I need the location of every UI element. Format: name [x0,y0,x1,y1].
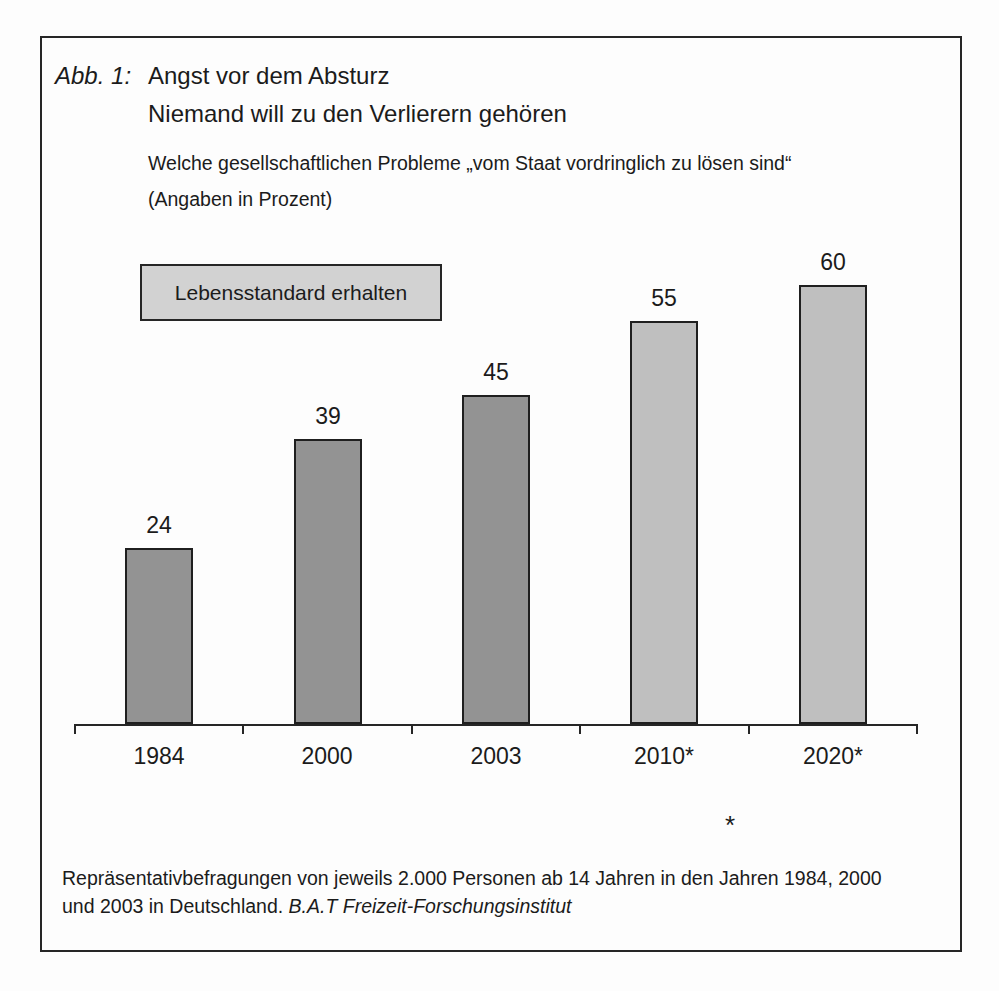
bar-value-label: 39 [268,403,388,433]
bar-2000 [294,439,362,724]
scanned-figure-page: Abb. 1: Angst vor dem Absturz Niemand wi… [0,0,999,991]
source-note-line-2-plain: und 2003 in Deutschland. [62,895,289,917]
bar-2003 [462,395,530,724]
bar-value-label: 45 [436,359,556,389]
x-axis-label: 2000 [243,743,411,771]
footnote-asterisk-marker: * [700,810,760,842]
bar-2020* [799,285,867,724]
source-note-line-1: Repräsentativbefragungen von jeweils 2.0… [62,864,946,892]
x-axis-tick [748,724,750,734]
x-axis-label: 2003 [412,743,580,771]
x-axis-label: 2020* [749,743,917,771]
bar-1984 [125,548,193,724]
bar-2010* [630,321,698,724]
x-axis-label: 1984 [75,743,243,771]
source-note-institute: B.A.T Freizeit-Forschungsinstitut [289,895,572,917]
x-axis-tick [74,724,76,734]
x-axis-tick [579,724,581,734]
bar-value-label: 24 [99,512,219,542]
x-axis-label: 2010* [580,743,748,771]
bar-value-label: 60 [773,249,893,279]
bar-value-label: 55 [604,285,724,315]
x-axis-tick [411,724,413,734]
bar-chart: 241984392000452003552010*602020* [42,38,960,950]
figure-frame: Abb. 1: Angst vor dem Absturz Niemand wi… [40,36,962,952]
source-note: Repräsentativbefragungen von jeweils 2.0… [62,864,946,920]
x-axis-tick [916,724,918,734]
x-axis-line [75,724,917,726]
x-axis-tick [242,724,244,734]
source-note-line-2: und 2003 in Deutschland. B.A.T Freizeit-… [62,892,946,920]
